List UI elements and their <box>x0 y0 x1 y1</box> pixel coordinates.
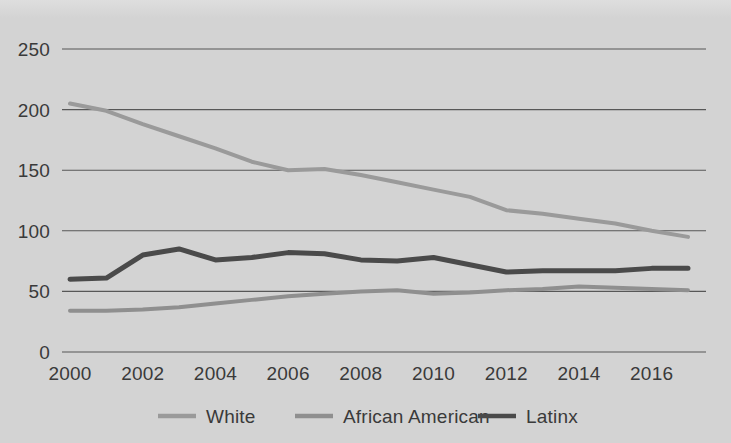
x-axis-tick-labels: 200020022004200620082010201220142016 <box>48 363 673 384</box>
y-tick-label: 150 <box>18 160 50 181</box>
legend-label-white[interactable]: White <box>206 406 256 427</box>
series-lines <box>70 104 688 311</box>
y-tick-label: 50 <box>28 281 50 302</box>
y-tick-label: 250 <box>18 39 50 60</box>
legend-label-latinx[interactable]: Latinx <box>526 406 578 427</box>
x-tick-label: 2006 <box>267 363 310 384</box>
x-tick-label: 2004 <box>194 363 237 384</box>
series-line-latinx <box>70 249 688 279</box>
chart-page: 050100150200250 200020022004200620082010… <box>0 0 731 443</box>
x-tick-label: 2012 <box>485 363 528 384</box>
series-line-african-american <box>70 287 688 311</box>
x-tick-label: 2016 <box>630 363 673 384</box>
x-tick-label: 2002 <box>121 363 164 384</box>
legend-label-african-american[interactable]: African American <box>343 406 490 427</box>
x-tick-label: 2000 <box>48 363 91 384</box>
y-tick-label: 200 <box>18 100 50 121</box>
chart-legend: WhiteAfrican AmericanLatinx <box>158 406 578 427</box>
y-tick-label: 0 <box>39 342 50 363</box>
x-tick-label: 2008 <box>339 363 382 384</box>
y-axis-tick-labels: 050100150200250 <box>18 39 50 363</box>
line-chart: 050100150200250 200020022004200620082010… <box>0 0 731 443</box>
x-tick-label: 2010 <box>412 363 455 384</box>
y-tick-label: 100 <box>18 221 50 242</box>
x-tick-label: 2014 <box>557 363 600 384</box>
